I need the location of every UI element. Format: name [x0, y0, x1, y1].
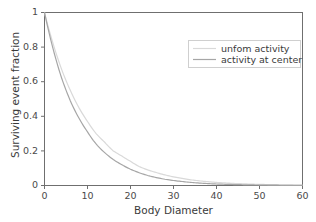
plot-canvas	[0, 0, 316, 222]
x-tick-label-20: 20	[117, 191, 144, 201]
y-axis-ticks	[41, 13, 45, 186]
legend-label-activity-at-center: activity at center	[221, 54, 302, 65]
x-tick-label-60: 60	[289, 191, 316, 201]
y-axis-label: Surviving event fraction	[9, 38, 21, 158]
x-axis-label: Body Diameter	[44, 204, 303, 216]
chart-figure: 1 0.8 0.6 0.4 0.2 0 0 10 20 30 40 50 60 …	[0, 0, 316, 222]
x-tick-label-30: 30	[160, 191, 187, 201]
y-tick-label-0: 0	[10, 180, 38, 190]
plot-frame	[45, 13, 303, 186]
x-tick-label-10: 10	[74, 191, 101, 201]
x-tick-label-0: 0	[31, 191, 58, 201]
y-tick-label-1: 1	[10, 7, 38, 17]
x-tick-label-50: 50	[246, 191, 273, 201]
x-tick-label-40: 40	[203, 191, 230, 201]
x-axis-ticks	[45, 186, 303, 190]
legend-label-unfom-activity: unfom activity	[221, 43, 290, 54]
